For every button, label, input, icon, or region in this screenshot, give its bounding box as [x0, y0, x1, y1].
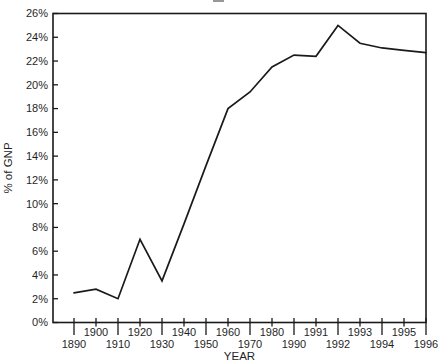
y-tick-label: 8% — [32, 221, 48, 233]
y-tick-label: 22% — [26, 55, 48, 67]
y-tick-label: 10% — [26, 198, 48, 210]
y-tick-label: 18% — [26, 102, 48, 114]
x-tick-label: 1996 — [414, 338, 438, 350]
y-tick-label: 2% — [32, 293, 48, 305]
y-tick-label: 0% — [32, 316, 48, 328]
x-axis-title: YEAR — [224, 350, 255, 362]
x-tick-label: 1910 — [106, 338, 130, 350]
x-tick-label: 1991 — [304, 326, 328, 338]
x-tick-label: 1940 — [172, 326, 196, 338]
x-tick-label: 1994 — [370, 338, 394, 350]
gnp-line-chart: 0%2%4%6%8%10%12%14%16%18%20%22%24%26%189… — [0, 0, 441, 364]
y-tick-label: 20% — [26, 79, 48, 91]
x-tick-label: 1992 — [326, 338, 350, 350]
x-tick-label: 1993 — [348, 326, 372, 338]
chart-figure: 0%2%4%6%8%10%12%14%16%18%20%22%24%26%189… — [0, 0, 441, 364]
y-tick-label: 12% — [26, 174, 48, 186]
x-tick-label: 1930 — [150, 338, 174, 350]
y-axis-title: % of GNP — [2, 142, 14, 193]
y-tick-label: 26% — [26, 7, 48, 19]
x-tick-label: 1890 — [62, 338, 86, 350]
y-tick-label: 4% — [32, 269, 48, 281]
x-tick-label: 1990 — [282, 338, 306, 350]
y-tick-label: 16% — [26, 126, 48, 138]
x-tick-label: 1970 — [238, 338, 262, 350]
x-tick-label: 1950 — [194, 338, 218, 350]
plot-border — [53, 14, 426, 323]
y-tick-label: 14% — [26, 150, 48, 162]
gnp-data-line — [74, 25, 426, 298]
x-tick-label: 1995 — [392, 326, 416, 338]
x-tick-label: 1920 — [128, 326, 152, 338]
x-tick-label: 1900 — [84, 326, 108, 338]
y-tick-label: 6% — [32, 245, 48, 257]
x-tick-label: 1980 — [260, 326, 284, 338]
x-tick-label: 1960 — [216, 326, 240, 338]
y-tick-label: 24% — [26, 31, 48, 43]
